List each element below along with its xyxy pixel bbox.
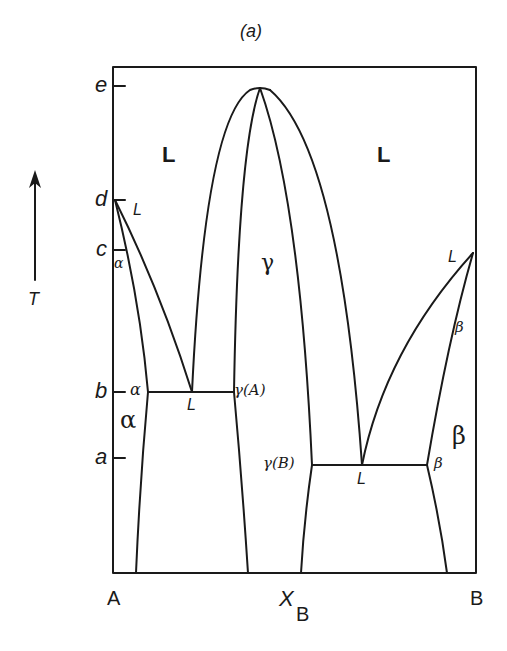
tick-label-b: b: [95, 380, 107, 402]
solvus-gamma-left: [234, 392, 248, 573]
phase-diagram: [0, 0, 507, 651]
label-c-alpha: α: [114, 256, 123, 270]
solidus-gamma-right: [260, 88, 312, 465]
label-right-L: L: [448, 249, 457, 265]
solidus-alpha: [115, 200, 148, 392]
region-gamma: γ: [261, 252, 274, 274]
liquidus-gamma-right: [270, 90, 362, 465]
solvus-alpha: [136, 392, 148, 573]
y-axis-label: T: [28, 290, 39, 308]
solvus-beta: [427, 465, 447, 573]
solidus-gamma-left: [234, 88, 260, 392]
label-right-beta: β: [455, 320, 464, 335]
tick-label-a: a: [95, 446, 107, 468]
x-axis-label: X: [279, 588, 294, 610]
label-b-L: L: [187, 397, 196, 413]
region-liquid-right: L: [377, 144, 390, 166]
label-b-alpha: α: [130, 382, 141, 398]
tick-label-d: d: [95, 188, 107, 210]
label-d-L: L: [133, 202, 142, 218]
region-liquid-left: L: [162, 144, 175, 166]
tick-label-c: c: [96, 238, 107, 260]
tick-label-e: e: [95, 74, 107, 96]
label-a-gammaB: γ(B): [263, 456, 295, 471]
label-b-gammaA: γ(A): [234, 383, 266, 398]
x-axis-label-subscript: B: [296, 604, 309, 624]
label-a-beta: β: [434, 456, 443, 471]
solvus-gamma-right: [301, 465, 312, 573]
liquidus-gamma-left: [192, 88, 270, 392]
label-a-L: L: [357, 471, 366, 487]
region-beta: β: [452, 424, 466, 448]
panel-label: (a): [240, 22, 262, 40]
region-alpha: α: [120, 408, 136, 432]
x-right-label: B: [470, 588, 483, 608]
x-left-label: A: [107, 588, 120, 608]
solidus-beta: [427, 253, 473, 465]
liquidus-left: [115, 200, 192, 392]
